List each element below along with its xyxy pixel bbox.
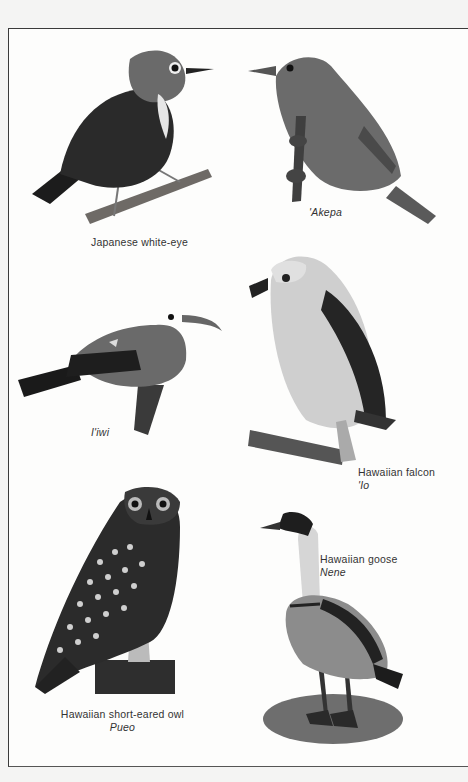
hawaiian-name: 'Io: [358, 479, 435, 492]
hawaiian-name: 'Akepa: [309, 206, 342, 218]
hawaiian-name: Pueo: [60, 721, 185, 734]
common-name: Hawaiian falcon: [358, 466, 435, 479]
hawaiian-goose-illustration: [258, 514, 408, 754]
hawaiian-falcon-illustration: [246, 250, 401, 475]
hawaiian-name: Nene: [320, 566, 398, 579]
caption-akepa: 'Akepa: [309, 206, 342, 219]
japanese-white-eye-illustration: [30, 44, 220, 229]
common-name: Japanese white-eye: [91, 236, 188, 248]
common-name: Hawaiian short-eared owl: [60, 708, 185, 721]
hawaiian-name: I'iwi: [91, 426, 109, 438]
common-name: Hawaiian goose: [320, 553, 398, 566]
hawaiian-short-eared-owl-illustration: [30, 482, 190, 697]
caption-iiwi: I'iwi: [91, 426, 109, 439]
iiwi-illustration: [16, 305, 226, 445]
caption-japanese-white-eye: Japanese white-eye: [91, 236, 188, 249]
caption-hawaiian-short-eared-owl: Hawaiian short-eared owl Pueo: [60, 708, 185, 734]
caption-hawaiian-falcon: Hawaiian falcon 'Io: [358, 466, 435, 492]
akepa-illustration: [246, 46, 441, 231]
caption-hawaiian-goose: Hawaiian goose Nene: [320, 553, 398, 579]
